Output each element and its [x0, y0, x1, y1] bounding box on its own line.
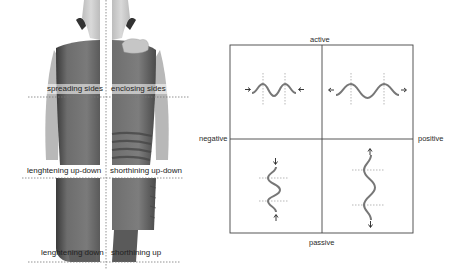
- axis-label-active: active: [310, 35, 330, 44]
- axis-label-passive: passive: [309, 238, 334, 247]
- arrow-down-icon: [274, 158, 278, 165]
- quadrant-graphics: [0, 0, 464, 270]
- arrow-left-icon: [329, 88, 335, 92]
- arrow-down-icon: [369, 221, 373, 228]
- axis-label-negative: negative: [199, 134, 227, 143]
- arrow-right-icon: [401, 88, 407, 92]
- arrow-left-icon: [299, 88, 305, 92]
- quadrant-diagram: active passive negative positive: [0, 0, 464, 270]
- wave-top-right: [329, 73, 407, 105]
- wave-bottom-left: [259, 158, 289, 221]
- axis-label-positive: positive: [418, 134, 443, 143]
- arrow-right-icon: [245, 88, 251, 92]
- arrow-up-icon: [368, 149, 372, 156]
- wave-bottom-right: [352, 149, 384, 228]
- arrow-up-icon: [274, 215, 278, 222]
- wave-top-left: [245, 73, 304, 105]
